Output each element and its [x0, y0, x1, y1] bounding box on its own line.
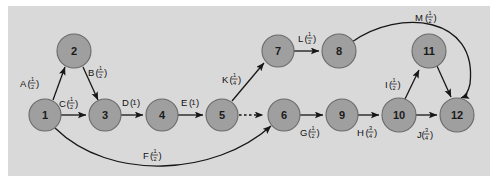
edge-label-c-numerator: 1 — [70, 96, 73, 102]
edge-label-f-numerator: 1 — [153, 148, 156, 154]
edge-label-f-paren-close: ) — [159, 150, 162, 161]
edge-label-f: F ( 1 2 ) — [143, 148, 162, 162]
node-9-label: 9 — [339, 109, 345, 121]
edge-label-g-numerator: 1 — [311, 125, 314, 131]
edge-label-g-letter: G — [300, 127, 307, 138]
edge-label-e: E ( 1 ) — [181, 97, 199, 108]
edge-f-1-to-6 — [55, 126, 271, 166]
edge-label-j-denominator: 4 — [425, 135, 428, 141]
edge-11-to-12 — [437, 66, 451, 97]
edge-label-b-paren-close: ) — [104, 67, 107, 78]
node-10[interactable]: 10 — [382, 98, 416, 132]
edge-label-e-letter: E — [181, 97, 187, 108]
edge-label-k-denominator: 4 — [233, 80, 236, 86]
edge-label-i-paren-close: ) — [398, 79, 401, 90]
node-7-label: 7 — [275, 45, 281, 57]
edge-label-i-letter: I — [385, 79, 388, 90]
graph-svg: 1 2 3 4 5 6 7 — [0, 0, 498, 182]
edge-label-h-numerator: 3 — [369, 125, 372, 131]
node-5-label: 5 — [219, 109, 225, 121]
edge-label-i: I ( 1 2 ) — [385, 77, 401, 91]
edge-label-l-paren-close: ) — [313, 33, 316, 44]
edge-label-b-denominator: 2 — [99, 73, 102, 79]
node-layer: 1 2 3 4 5 6 7 — [29, 34, 474, 132]
node-8[interactable]: 8 — [322, 34, 356, 68]
edge-label-e-paren-close: ) — [196, 97, 199, 108]
edge-label-b-letter: B — [88, 67, 94, 78]
edge-label-f-denominator: 2 — [153, 156, 156, 162]
edge-label-a-letter: A — [20, 78, 27, 89]
node-11[interactable]: 11 — [412, 34, 446, 68]
edge-label-a-numerator: 1 — [31, 76, 34, 82]
edge-label-h: H ( 3 4 ) — [357, 125, 377, 139]
node-6-label: 6 — [281, 109, 287, 121]
edge-label-a-paren-close: ) — [36, 78, 39, 89]
node-9[interactable]: 9 — [326, 99, 358, 131]
edge-label-g-denominator: 2 — [311, 133, 314, 139]
edge-layer — [53, 22, 471, 166]
edge-label-c: C ( 1 2 ) — [59, 96, 78, 110]
edge-label-j-numerator: 3 — [425, 127, 428, 133]
edge-label-h-paren-close: ) — [374, 127, 377, 138]
edge-label-i-denominator: 2 — [392, 85, 395, 91]
node-4-label: 4 — [159, 109, 166, 121]
node-4[interactable]: 4 — [146, 99, 178, 131]
edge-label-g-paren-close: ) — [317, 127, 320, 138]
edge-label-m-numerator: 1 — [428, 10, 431, 16]
node-1-label: 1 — [42, 109, 48, 121]
edge-label-k-numerator: 1 — [233, 72, 236, 78]
edge-label-m-letter: M — [415, 12, 423, 23]
node-8-label: 8 — [336, 45, 342, 57]
node-11-label: 11 — [423, 45, 435, 57]
edge-label-a: A ( 1 2 ) — [20, 76, 39, 90]
edge-label-c-paren-close: ) — [75, 98, 78, 109]
edge-label-l-denominator: 2 — [308, 39, 311, 45]
edge-k-5-to-7 — [232, 63, 264, 101]
node-6[interactable]: 6 — [268, 99, 300, 131]
node-5[interactable]: 5 — [206, 99, 238, 131]
edge-label-g: G ( 1 2 ) — [300, 125, 320, 139]
edge-label-d-letter: D — [122, 97, 129, 108]
edge-label-i-numerator: 1 — [392, 77, 395, 83]
edge-label-f-letter: F — [143, 150, 149, 161]
edge-label-b-numerator: 1 — [99, 65, 102, 71]
edge-label-d-paren-close: ) — [137, 97, 140, 108]
node-2-label: 2 — [71, 45, 77, 57]
figure-canvas: 1 2 3 4 5 6 7 — [0, 0, 498, 182]
edge-label-k-paren-close: ) — [238, 74, 241, 85]
edge-label-j-paren-close: ) — [430, 129, 433, 140]
node-3[interactable]: 3 — [89, 99, 121, 131]
edge-label-c-denominator: 2 — [70, 104, 73, 110]
node-10-label: 10 — [393, 109, 405, 121]
edge-label-l: L ( 1 2 ) — [298, 31, 316, 45]
edge-label-h-letter: H — [357, 127, 364, 138]
edge-label-h-denominator: 4 — [369, 133, 372, 139]
edge-label-m-paren-close: ) — [434, 12, 437, 23]
edge-label-c-letter: C — [59, 98, 66, 109]
node-12[interactable]: 12 — [440, 98, 474, 132]
node-2[interactable]: 2 — [57, 34, 91, 68]
edge-label-j: J ( 3 4 ) — [417, 127, 433, 141]
edge-label-d: D ( 1 ) — [122, 97, 140, 108]
node-3-label: 3 — [102, 109, 108, 121]
edge-label-k: K ( 1 4 ) — [222, 72, 241, 86]
edge-label-l-letter: L — [298, 33, 303, 44]
edge-label-layer: A ( 1 2 ) B ( 1 2 ) C ( 1 — [20, 10, 437, 162]
node-1[interactable]: 1 — [29, 99, 61, 131]
edge-label-l-numerator: 1 — [308, 31, 311, 37]
edge-label-m: M ( 1 2 ) — [415, 10, 437, 24]
node-12-label: 12 — [451, 109, 463, 121]
edge-i-10-to-11 — [405, 70, 419, 99]
node-7[interactable]: 7 — [262, 35, 294, 67]
edge-label-m-denominator: 2 — [428, 18, 431, 24]
edge-a-1-to-2 — [53, 67, 65, 100]
edge-label-k-letter: K — [222, 74, 229, 85]
edge-label-b: B ( 1 2 ) — [88, 65, 107, 79]
edge-label-a-denominator: 2 — [31, 84, 34, 90]
